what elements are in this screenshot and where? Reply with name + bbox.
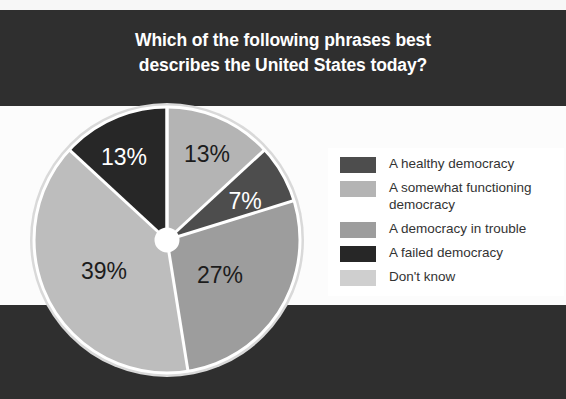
legend-swatch	[340, 246, 376, 262]
legend-item[interactable]: A democracy in trouble	[340, 221, 558, 238]
legend-item[interactable]: A healthy democracy	[340, 156, 558, 173]
legend-swatch	[340, 222, 376, 238]
pie-slice-label: 39%	[81, 258, 127, 284]
legend-item[interactable]: Don't know	[340, 269, 558, 286]
pie-slice-label: 13%	[101, 144, 147, 170]
legend-item[interactable]: A somewhat functioning democracy	[340, 180, 558, 214]
legend-item[interactable]: A failed democracy	[340, 245, 558, 262]
legend-item-label: A democracy in trouble	[389, 221, 526, 238]
pie-slice-label: 7%	[228, 188, 261, 214]
page-title: Which of the following phrases best desc…	[0, 28, 566, 78]
legend-item-label: A failed democracy	[389, 245, 503, 262]
pie-chart-svg: 13%7%27%39%13%	[28, 101, 306, 379]
legend-item-label: Don't know	[389, 269, 455, 286]
title-line-2: describes the United States today?	[0, 53, 566, 78]
legend-item-label: A healthy democracy	[389, 156, 514, 173]
title-line-1: Which of the following phrases best	[0, 28, 566, 53]
legend: A healthy democracy A somewhat functioni…	[328, 148, 564, 296]
legend-item-label: A somewhat functioning democracy	[389, 180, 558, 214]
legend-swatch	[340, 181, 376, 197]
pie-center-hub	[155, 228, 180, 253]
chart-screenshot: Which of the following phrases best desc…	[0, 0, 566, 399]
pie-slice-label: 13%	[184, 141, 230, 167]
pie-slice-label: 27%	[197, 262, 243, 288]
legend-swatch	[340, 157, 376, 173]
background-edge-top	[0, 0, 566, 10]
legend-swatch	[340, 270, 376, 286]
pie-chart: 13%7%27%39%13%	[28, 101, 306, 379]
